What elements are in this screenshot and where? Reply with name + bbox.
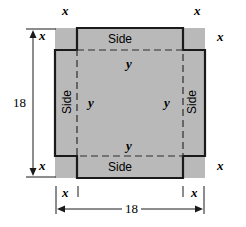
label-dimension-horizontal-18: 18	[122, 202, 141, 215]
label-y-left: y	[88, 96, 94, 109]
label-side-right: Side	[186, 82, 198, 122]
label-x-bottom-right-outer: x	[191, 186, 198, 199]
label-side-left: Side	[61, 82, 73, 122]
box-net-diagram: x x x x x x x x 18 18 Side Side Side Sid…	[0, 0, 246, 227]
label-x-right-upper: x	[217, 30, 224, 43]
label-x-right-lower: x	[217, 159, 224, 172]
label-y-top: y	[126, 57, 132, 70]
label-x-top-left-outer: x	[62, 4, 69, 17]
label-dimension-vertical-18: 18	[13, 96, 26, 109]
label-y-bottom: y	[126, 139, 132, 152]
corner-tick-marks	[78, 186, 183, 197]
vertical-dimension-line	[26, 29, 56, 177]
label-x-left-lower: x	[39, 159, 46, 172]
label-x-left-upper: x	[39, 29, 46, 42]
label-x-bottom-left-outer: x	[62, 186, 69, 199]
label-x-top-right-outer: x	[194, 4, 201, 17]
label-side-bottom: Side	[108, 161, 132, 173]
label-y-right: y	[164, 96, 170, 109]
label-side-top: Side	[108, 33, 132, 45]
